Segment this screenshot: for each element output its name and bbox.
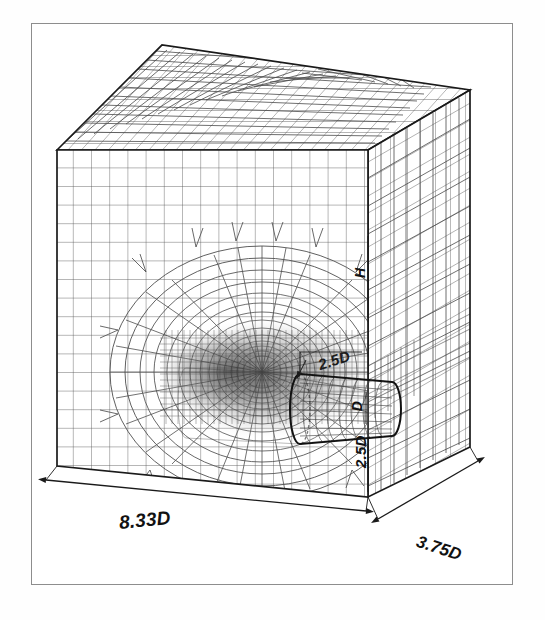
figure-root: 8.33D 3.75D H 2.5D D 2.5D	[0, 0, 545, 620]
dimension-label-height: H	[352, 268, 368, 278]
dimension-label-cylinder-offset-bottom: 2.5D	[352, 436, 369, 469]
mesh-drawing	[0, 0, 545, 620]
dimension-label-cylinder-diameter: D	[349, 401, 365, 411]
